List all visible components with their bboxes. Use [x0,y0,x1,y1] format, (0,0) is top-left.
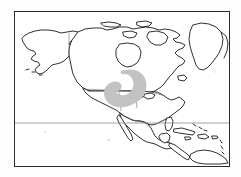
great-lakes [144,93,155,99]
island-jamaica [185,137,191,140]
map-canvas [15,12,229,166]
scan-speck [108,139,110,141]
figure-container [0,0,241,177]
scan-speck [44,131,46,133]
map-frame [14,11,230,167]
scan-speck [214,71,215,72]
island-puerto-rico [212,136,218,139]
